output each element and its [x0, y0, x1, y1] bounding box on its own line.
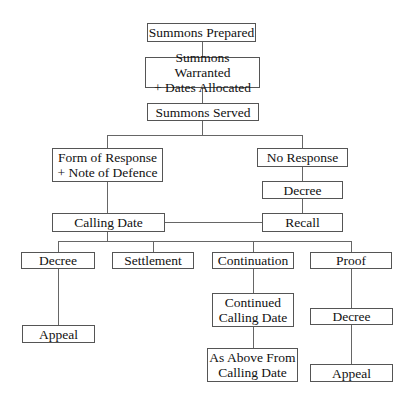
- node-label: Proof: [336, 253, 366, 268]
- connector: [253, 327, 254, 348]
- connector: [165, 222, 262, 223]
- node-label: As Above From Calling Date: [209, 350, 295, 380]
- connector: [302, 199, 303, 213]
- connector: [153, 241, 154, 252]
- node-continuation: Continuation: [212, 252, 294, 269]
- node-label: Decree: [332, 309, 370, 324]
- connector: [253, 268, 254, 293]
- node-decree-proof: Decree: [310, 308, 393, 325]
- node-summons-prepared: Summons Prepared: [147, 23, 256, 42]
- node-label: Form of Response + Note of Defence: [57, 150, 157, 180]
- connector: [351, 325, 352, 364]
- connector: [107, 135, 303, 136]
- node-appeal-decree: Appeal: [22, 325, 95, 343]
- connector: [107, 135, 108, 148]
- node-continued-calling-date: Continued Calling Date: [212, 293, 294, 327]
- node-label: Settlement: [124, 253, 182, 268]
- node-summons-served: Summons Served: [147, 103, 259, 121]
- node-label: Summons Served: [156, 105, 251, 120]
- node-label: Recall: [285, 215, 319, 230]
- node-summons-warranted: Summons Warranted + Dates Allocated: [145, 57, 260, 88]
- node-no-response: No Response: [257, 148, 348, 167]
- node-label: Continuation: [218, 253, 289, 268]
- node-decree-calling: Decree: [21, 252, 95, 269]
- node-calling-date: Calling Date: [52, 213, 165, 232]
- node-label: Summons Warranted + Dates Allocated: [146, 50, 259, 95]
- connector: [202, 120, 203, 135]
- connector: [58, 241, 352, 242]
- connector: [302, 167, 303, 181]
- node-recall: Recall: [262, 213, 343, 232]
- node-label: Decree: [39, 253, 77, 268]
- node-label: Summons Prepared: [149, 25, 254, 40]
- node-settlement: Settlement: [112, 252, 194, 269]
- connector: [351, 268, 352, 308]
- connector: [58, 241, 59, 252]
- connector: [107, 232, 108, 241]
- node-label: Decree: [283, 183, 321, 198]
- connector: [107, 182, 108, 213]
- node-decree-no-response: Decree: [262, 181, 343, 199]
- node-as-above: As Above From Calling Date: [207, 348, 298, 382]
- node-label: No Response: [267, 150, 339, 165]
- connector: [351, 241, 352, 252]
- node-proof: Proof: [310, 252, 392, 269]
- node-label: Continued Calling Date: [219, 295, 288, 325]
- node-label: Appeal: [332, 366, 371, 381]
- node-label: Appeal: [39, 327, 78, 342]
- node-form-of-response: Form of Response + Note of Defence: [52, 148, 163, 182]
- connector: [302, 135, 303, 148]
- node-appeal-proof: Appeal: [310, 364, 393, 382]
- connector: [58, 268, 59, 325]
- connector: [253, 241, 254, 252]
- node-label: Calling Date: [74, 215, 143, 230]
